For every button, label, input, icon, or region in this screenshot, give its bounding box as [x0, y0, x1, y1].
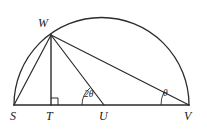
vertex-label-T: T — [46, 110, 53, 122]
geometry-figure: S T U V W 2θ θ — [0, 0, 207, 130]
angle-label-two-theta: 2θ — [84, 90, 93, 100]
segment-WU — [51, 35, 104, 105]
right-angle-mark-at-T — [51, 98, 58, 105]
vertex-label-W: W — [38, 17, 48, 29]
segment-SW — [14, 35, 51, 105]
segment-WV — [51, 35, 189, 105]
vertex-label-U: U — [99, 110, 108, 122]
vertex-label-V: V — [184, 110, 191, 122]
angle-label-theta: θ — [163, 89, 168, 99]
vertex-label-S: S — [10, 110, 16, 122]
